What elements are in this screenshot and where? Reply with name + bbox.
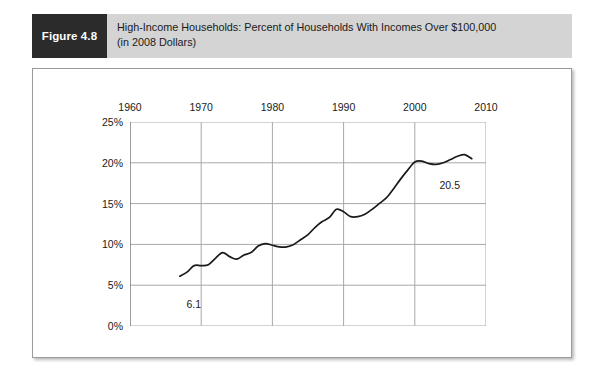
line-chart-svg: [130, 122, 486, 326]
gridlines: [130, 122, 486, 326]
x-axis-tick-label: 1980: [261, 101, 284, 113]
y-axis-tick-label: 25%: [102, 116, 123, 128]
y-axis-tick-label: 15%: [102, 198, 123, 210]
y-axis-tick-label: 0%: [108, 320, 123, 332]
axis-ticks: [130, 122, 486, 326]
y-axis-tick-label: 5%: [108, 279, 123, 291]
figure-header: Figure 4.8 High-Income Households: Perce…: [32, 14, 572, 58]
plot-area: 0%5%10%15%20%25%196019701980199020002010…: [130, 122, 486, 326]
chart-panel: 0%5%10%15%20%25%196019701980199020002010…: [32, 68, 572, 358]
data-series-line: [180, 155, 472, 277]
x-axis-tick-label: 1990: [332, 101, 355, 113]
x-axis-tick-label: 2010: [474, 101, 497, 113]
figure-caption: High-Income Households: Percent of House…: [107, 14, 572, 58]
figure-caption-line-2: (in 2008 Dollars): [117, 35, 564, 50]
figure-caption-line-1: High-Income Households: Percent of House…: [117, 20, 564, 35]
x-axis-tick-label: 2000: [403, 101, 426, 113]
y-axis-tick-label: 20%: [102, 157, 123, 169]
x-axis-tick-label: 1970: [190, 101, 213, 113]
data-value-annotation: 20.5: [440, 179, 460, 191]
x-axis-tick-label: 1960: [118, 101, 141, 113]
figure-number-tag: Figure 4.8: [32, 14, 107, 58]
data-value-annotation: 6.1: [187, 298, 202, 310]
y-axis-tick-label: 10%: [102, 238, 123, 250]
